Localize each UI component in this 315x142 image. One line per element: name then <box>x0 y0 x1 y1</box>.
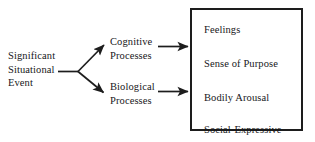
outcome-item-bodily-arousal: Bodily Arousal <box>204 92 269 103</box>
arrow-fork-to-biological <box>78 72 104 93</box>
diagram-canvas: Significant Situational Event Cognitive … <box>0 0 315 142</box>
cognitive-line-1: Cognitive <box>110 35 152 49</box>
node-cognitive-processes: Cognitive Processes <box>110 35 152 62</box>
outcome-item-sense-of-purpose: Sense of Purpose <box>204 58 278 69</box>
biological-line-2: Processes <box>110 94 155 108</box>
outcome-item-feelings: Feelings <box>204 24 240 35</box>
source-line-3: Event <box>8 76 55 90</box>
biological-line-1: Biological <box>110 80 155 94</box>
node-biological-processes: Biological Processes <box>110 80 155 107</box>
source-line-2: Situational <box>8 63 55 77</box>
source-line-1: Significant <box>8 49 55 63</box>
node-significant-situational-event: Significant Situational Event <box>8 49 55 90</box>
cognitive-line-2: Processes <box>110 49 152 63</box>
outcome-item-social-expressive: Social-Expressive <box>204 124 282 135</box>
arrow-fork-to-cognitive <box>78 45 104 72</box>
outcome-box: Feelings Sense of Purpose Bodily Arousal… <box>190 8 303 131</box>
